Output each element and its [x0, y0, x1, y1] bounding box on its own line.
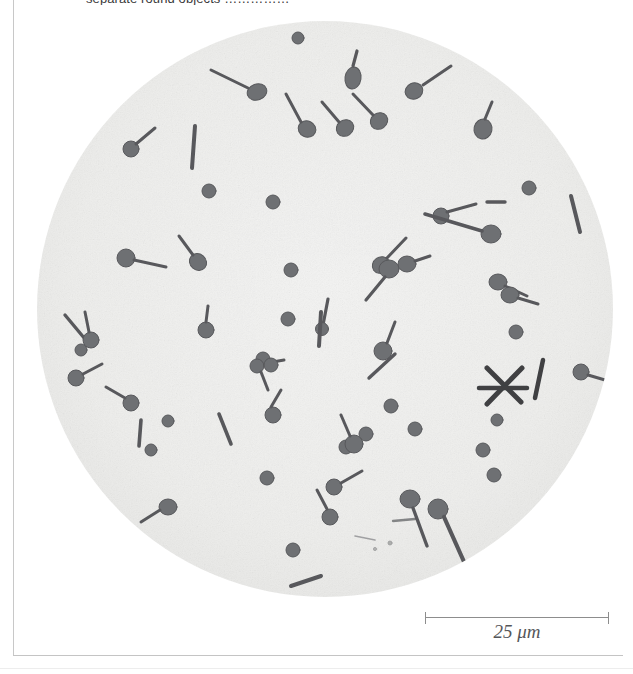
scale-bar-label: 25 μm [425, 621, 609, 643]
figure-page: separate round objects …………… [0, 0, 633, 674]
micrograph-svg [35, 16, 615, 602]
figure-frame-bottom-rule [13, 655, 623, 656]
figure-frame-left-rule [13, 0, 14, 656]
scale-bar-line [425, 617, 609, 618]
caption-top-cutoff: separate round objects …………… [86, 0, 416, 5]
micrograph-field [35, 16, 615, 602]
page-bottom-rule [0, 668, 633, 669]
